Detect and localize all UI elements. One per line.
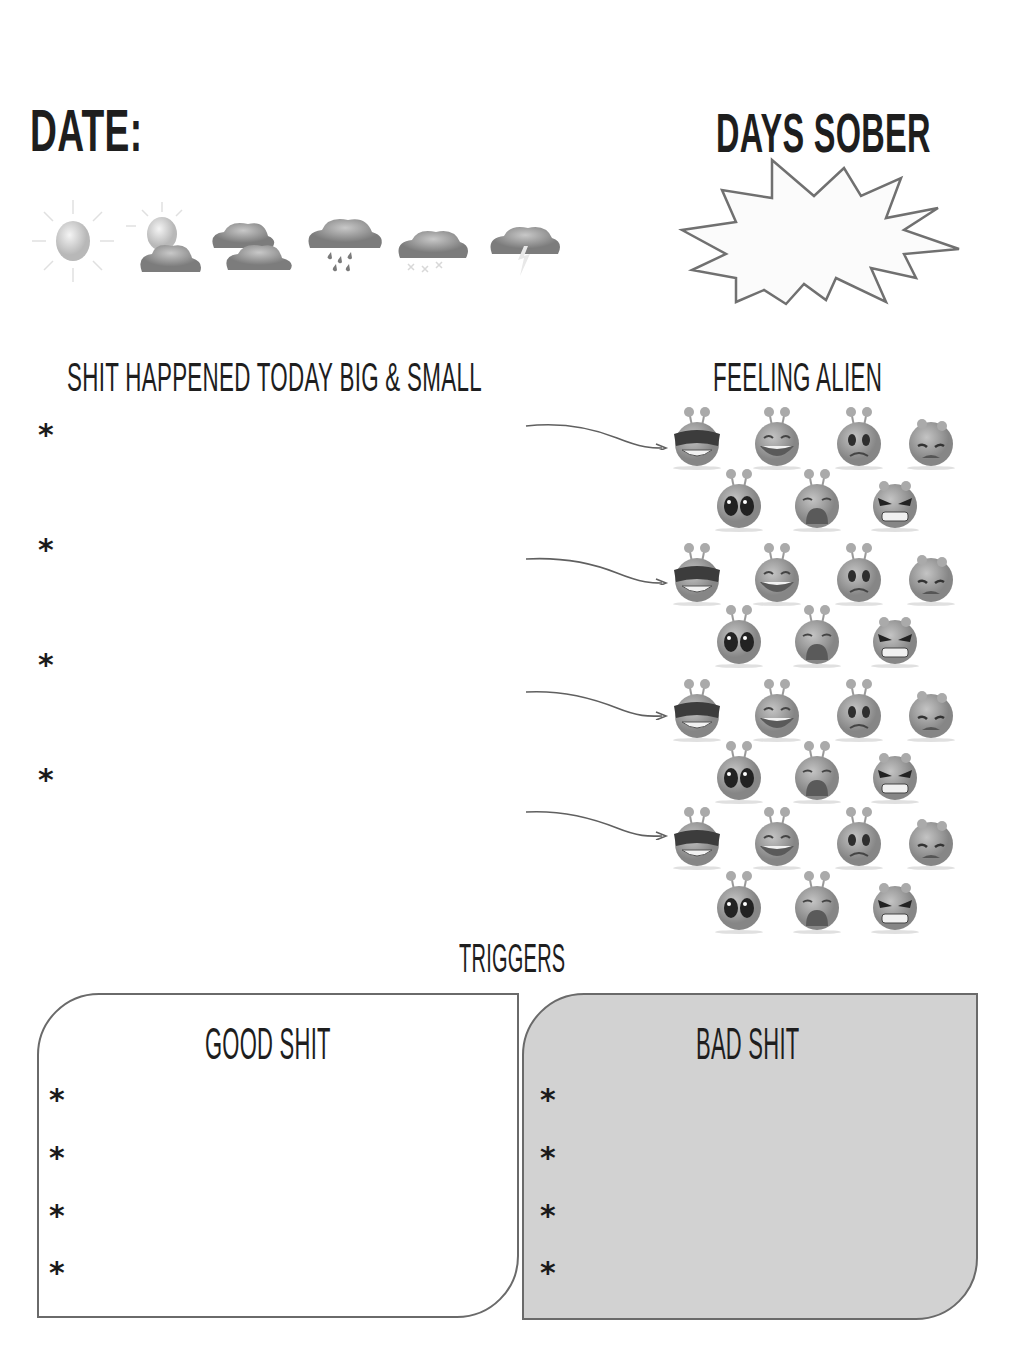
alien-sad-icon[interactable] — [902, 400, 960, 470]
bad-bullet-1: * — [540, 1085, 556, 1115]
days-sober-starburst[interactable] — [676, 150, 960, 310]
alien-cool-icon[interactable] — [668, 400, 726, 470]
good-bullet-2: * — [49, 1143, 65, 1173]
event-entry-3[interactable] — [70, 640, 510, 700]
good-triggers-title: GOOD SHIT — [205, 1019, 331, 1069]
feelings-section-title: FEELING ALIEN — [713, 355, 882, 400]
alien-laughing-icon[interactable] — [748, 672, 806, 742]
good-bullet-4: * — [49, 1258, 65, 1288]
bad-triggers-title: BAD SHIT — [696, 1019, 799, 1069]
event-entry-1[interactable] — [70, 410, 510, 470]
alien-crying-icon[interactable] — [788, 462, 846, 532]
alien-laughing-icon[interactable] — [748, 400, 806, 470]
alien-cool-icon[interactable] — [668, 536, 726, 606]
sun-icon[interactable] — [28, 196, 118, 286]
clouds-icon[interactable] — [206, 196, 296, 286]
alien-crying-icon[interactable] — [788, 598, 846, 668]
event-bullet-1: * — [38, 420, 54, 450]
alien-crying-icon[interactable] — [788, 734, 846, 804]
date-label: DATE: — [30, 96, 142, 165]
alien-angry-icon[interactable] — [866, 734, 924, 804]
arrow-icon — [522, 410, 672, 450]
alien-laughing-icon[interactable] — [748, 800, 806, 870]
alien-shocked-icon[interactable] — [710, 734, 768, 804]
bad-bullet-4: * — [540, 1258, 556, 1288]
alien-laughing-icon[interactable] — [748, 536, 806, 606]
mood-selector-row-3 — [668, 672, 968, 802]
sun-cloud-icon[interactable] — [120, 196, 210, 286]
alien-angry-icon[interactable] — [866, 462, 924, 532]
alien-angry-icon[interactable] — [866, 598, 924, 668]
mood-selector-row-1 — [668, 400, 968, 530]
alien-cool-icon[interactable] — [668, 672, 726, 742]
bad-bullet-2: * — [540, 1143, 556, 1173]
event-bullet-3: * — [38, 650, 54, 680]
good-bullet-3: * — [49, 1201, 65, 1231]
event-bullet-4: * — [38, 765, 54, 795]
alien-cool-icon[interactable] — [668, 800, 726, 870]
mood-selector-row-4 — [668, 800, 968, 930]
alien-sad-icon[interactable] — [902, 672, 960, 742]
arrow-icon — [522, 800, 672, 840]
storm-cloud-icon[interactable] — [484, 196, 574, 286]
alien-shocked-icon[interactable] — [710, 864, 768, 934]
events-section-title: SHIT HAPPENED TODAY BIG & SMALL — [67, 355, 482, 400]
triggers-title: TRIGGERS — [459, 936, 565, 981]
alien-worried-icon[interactable] — [830, 536, 888, 606]
alien-worried-icon[interactable] — [830, 800, 888, 870]
bad-triggers-box[interactable]: BAD SHIT * * * * — [522, 993, 978, 1320]
alien-sad-icon[interactable] — [902, 800, 960, 870]
alien-shocked-icon[interactable] — [710, 598, 768, 668]
arrow-icon — [522, 545, 672, 585]
alien-worried-icon[interactable] — [830, 672, 888, 742]
alien-shocked-icon[interactable] — [710, 462, 768, 532]
event-entry-4[interactable] — [70, 755, 510, 815]
good-triggers-box[interactable]: GOOD SHIT * * * * — [37, 993, 519, 1318]
alien-sad-icon[interactable] — [902, 536, 960, 606]
alien-angry-icon[interactable] — [866, 864, 924, 934]
good-bullet-1: * — [49, 1085, 65, 1115]
event-bullet-2: * — [38, 535, 54, 565]
mood-selector-row-2 — [668, 536, 968, 666]
bad-bullet-3: * — [540, 1201, 556, 1231]
alien-worried-icon[interactable] — [830, 400, 888, 470]
snow-cloud-icon[interactable] — [392, 196, 482, 286]
rain-cloud-icon[interactable] — [300, 196, 390, 286]
alien-crying-icon[interactable] — [788, 864, 846, 934]
event-entry-2[interactable] — [70, 525, 510, 585]
arrow-icon — [522, 680, 672, 720]
